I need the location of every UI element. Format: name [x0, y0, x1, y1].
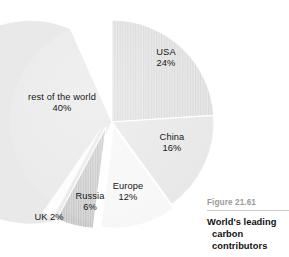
- caption-divider: [207, 210, 289, 211]
- figure-caption-text: World's leading carbon contributors: [207, 216, 289, 252]
- pie-label-china-name: China: [160, 132, 185, 142]
- pie-label-rest-of-the-world-percent: 40%: [10, 103, 114, 114]
- pie-label-usa-name: USA: [156, 47, 175, 57]
- figure-caption-block: Figure 21.61 World's leading carbon cont…: [207, 198, 289, 252]
- pie-label-usa-percent: 24%: [137, 58, 195, 69]
- figure-caption-line-1: World's leading: [207, 216, 289, 228]
- pie-label-europe-name: Europe: [113, 181, 144, 191]
- pie-label-usa: USA 24%: [137, 47, 195, 69]
- pie-label-rest-of-the-world-name: rest of the world: [28, 92, 96, 102]
- pie-label-rest-of-the-world: rest of the world 40%: [10, 92, 114, 114]
- figure-number: Figure 21.61: [207, 198, 289, 208]
- pie-label-uk: UK 2%: [20, 212, 78, 223]
- pie-label-china: China 16%: [143, 132, 201, 154]
- pie-label-russia: Russia 6%: [66, 191, 114, 213]
- pie-label-china-percent: 16%: [143, 143, 201, 154]
- figure-caption-line-2: carbon contributors: [207, 228, 289, 252]
- pie-chart-figure: USA 24% China 16% Europe 12% Russia 6% r…: [0, 0, 228, 257]
- figure-screenshot: USA 24% China 16% Europe 12% Russia 6% r…: [0, 0, 289, 257]
- pie-label-russia-name: Russia: [75, 191, 104, 201]
